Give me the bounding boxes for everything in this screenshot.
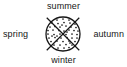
stipple-dot	[65, 34, 67, 36]
stipple-dot	[71, 44, 73, 46]
stipple-dot	[73, 30, 75, 32]
stipple-dot	[54, 26, 56, 28]
stipple-dot	[63, 30, 65, 32]
stipple-dot	[71, 33, 73, 35]
stipple-dot	[57, 47, 59, 49]
stipple-dot	[51, 35, 53, 37]
stipple-dot	[63, 47, 65, 49]
stipple-dot	[68, 40, 70, 42]
stipple-dot	[69, 42, 71, 44]
stipple-dot	[59, 33, 61, 35]
label-winter: winter	[0, 55, 127, 65]
stipple-dot	[53, 44, 55, 46]
stipple-dot	[52, 29, 54, 31]
stipple-dot	[59, 44, 61, 46]
stipple-dot	[56, 35, 58, 37]
stipple-dot	[68, 29, 70, 31]
stipple-dot	[47, 33, 49, 35]
stipple-dot	[75, 27, 77, 29]
stipple-dot	[68, 19, 70, 21]
stipple-dot	[48, 37, 50, 39]
stipple-dot	[76, 37, 78, 39]
stipple-dot	[71, 37, 73, 39]
stipple-dot	[50, 41, 52, 43]
stipple-dot	[53, 34, 55, 36]
stipple-dot	[65, 44, 67, 46]
stipple-dot	[49, 26, 51, 28]
label-autumn: autumn	[93, 29, 124, 39]
stipple-dot	[47, 30, 49, 32]
stipple-dot	[76, 34, 78, 36]
label-summer: summer	[0, 1, 127, 11]
stipple-dot	[70, 26, 72, 28]
stipple-dot	[54, 37, 56, 39]
stipple-dot	[56, 40, 58, 42]
stipple-dot	[77, 30, 79, 32]
stipple-dot	[57, 23, 59, 25]
stipple-dot	[51, 22, 53, 24]
stipple-dot	[63, 22, 65, 24]
seasons-wheel-diagram: summer winter spring autumn	[0, 0, 127, 67]
stipple-dot	[66, 31, 68, 33]
stipple-dot	[56, 19, 58, 21]
stipple-dot	[65, 25, 67, 27]
stipple-dot	[61, 24, 63, 26]
stipple-dot	[59, 26, 61, 28]
label-spring: spring	[3, 29, 28, 39]
stipple-dot	[62, 41, 64, 43]
stipple-dot	[58, 30, 60, 32]
stipple-dot	[66, 37, 68, 39]
stipple-dot	[62, 18, 64, 20]
stipple-dot	[69, 22, 71, 24]
stipple-dot	[74, 41, 76, 43]
stipple-dot	[68, 47, 70, 49]
stipple-dot	[60, 37, 62, 39]
